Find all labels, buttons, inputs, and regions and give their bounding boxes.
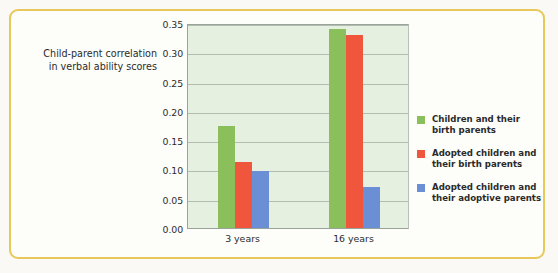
y-axis-title-line-2: in verbal ability scores [19,60,157,73]
plot-area [187,24,409,229]
legend-swatch-icon [417,150,425,158]
bar[interactable] [329,29,346,228]
y-axis-title: Child-parent correlation in verbal abili… [19,47,157,73]
y-axis-tick-label: 0.00 [149,224,183,235]
bar-group [326,25,384,228]
bar[interactable] [363,187,380,228]
plot-wrapper: 0.000.050.100.150.200.250.300.35 3 years… [187,24,409,229]
bar[interactable] [252,171,269,228]
bar[interactable] [235,162,252,228]
y-axis-tick-label: 0.05 [149,194,183,205]
legend: Children and theirbirth parentsAdopted c… [417,114,545,215]
legend-item[interactable]: Adopted children andtheir adoptive paren… [417,182,545,205]
figure-frame: Child-parent correlation in verbal abili… [9,9,545,259]
legend-swatch-icon [417,116,425,124]
legend-item[interactable]: Children and theirbirth parents [417,114,545,137]
y-axis-title-line-1: Child-parent correlation [19,47,157,60]
y-axis-tick-labels: 0.000.050.100.150.200.250.300.35 [147,24,183,229]
legend-label: Children and theirbirth parents [432,114,520,137]
legend-item[interactable]: Adopted children andtheir birth parents [417,148,545,171]
bar[interactable] [346,35,363,228]
y-axis-tick-label: 0.30 [149,48,183,59]
x-axis-tick-label: 3 years [225,233,260,244]
y-axis-tick-label: 0.20 [149,106,183,117]
bar-group [215,25,273,228]
legend-swatch-icon [417,184,425,192]
y-axis-tick-label: 0.15 [149,136,183,147]
legend-label: Adopted children andtheir birth parents [432,148,536,171]
y-axis-tick-label: 0.25 [149,77,183,88]
bar[interactable] [218,126,235,229]
x-axis-tick-label: 16 years [333,233,374,244]
y-axis-tick-label: 0.35 [149,19,183,30]
legend-label: Adopted children andtheir adoptive paren… [432,182,541,205]
y-axis-tick-label: 0.10 [149,165,183,176]
